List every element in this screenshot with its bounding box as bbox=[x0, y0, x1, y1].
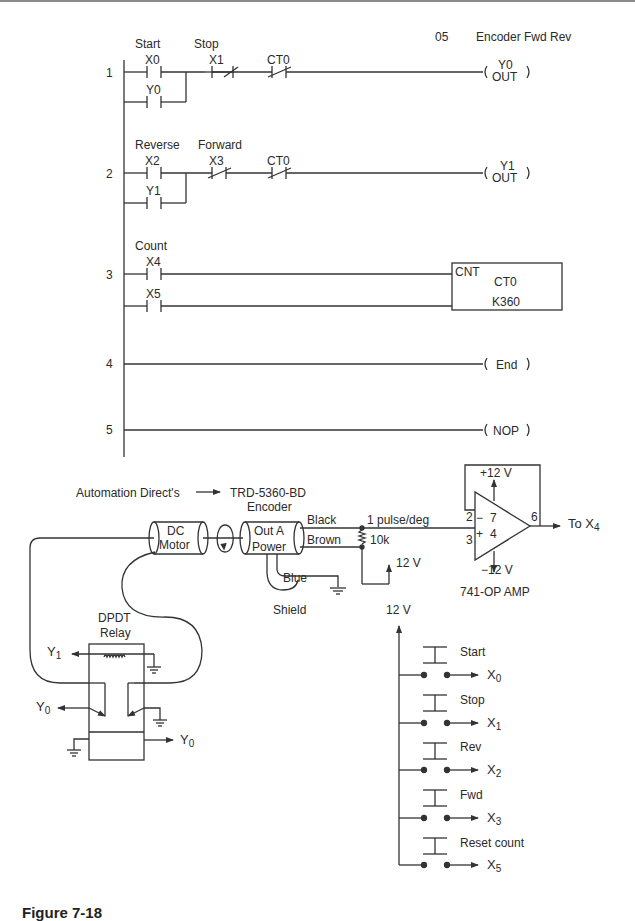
contact-label: Start bbox=[135, 37, 160, 51]
contact-label: Stop bbox=[194, 37, 219, 51]
opamp-pin-6: 6 bbox=[531, 510, 538, 524]
switch-output-x1: X1 bbox=[487, 716, 501, 734]
motor-label: DC bbox=[167, 524, 184, 538]
encoder-model: TRD-5360-BD bbox=[230, 486, 306, 500]
opamp-pos-supply: +12 V bbox=[480, 466, 512, 480]
rung-number: 4 bbox=[106, 357, 113, 371]
rung-1 bbox=[124, 66, 529, 108]
program-title: Encoder Fwd Rev bbox=[476, 30, 571, 44]
end-instruction: End bbox=[496, 358, 517, 372]
switch-label-start: Start bbox=[460, 645, 485, 659]
switch-output-x2: X2 bbox=[487, 763, 501, 781]
dpdt-relay bbox=[58, 644, 173, 760]
resistor-label: 10k bbox=[370, 533, 389, 547]
opamp-inv-sign: − bbox=[476, 511, 483, 525]
wire-blue-label: Blue bbox=[283, 571, 307, 585]
contact-label: Forward bbox=[198, 138, 242, 152]
coil-instruction: OUT bbox=[492, 70, 517, 84]
contact-address: X1 bbox=[209, 53, 224, 67]
switch-output-x0: X0 bbox=[487, 668, 501, 686]
contact-address: X0 bbox=[145, 53, 160, 67]
rung-number: 1 bbox=[106, 66, 113, 80]
contact-address: CT0 bbox=[267, 154, 290, 168]
rung-number: 5 bbox=[106, 423, 113, 437]
counter-preset: K360 bbox=[492, 295, 520, 309]
opamp-pin-4: 4 bbox=[490, 527, 497, 541]
signal-label: 1 pulse/deg bbox=[367, 513, 429, 527]
figure-caption: Figure 7-18 bbox=[22, 904, 102, 921]
contact-label: Count bbox=[135, 239, 167, 253]
encoder-terminal-power: Power bbox=[252, 540, 286, 554]
rung-4 bbox=[124, 358, 529, 370]
contact-address: X2 bbox=[145, 154, 160, 168]
switch-label-rev: Rev bbox=[460, 740, 481, 754]
contact-address: X5 bbox=[146, 287, 161, 301]
contact-address: CT0 bbox=[267, 53, 290, 67]
resistor-10k bbox=[359, 530, 365, 544]
opamp-pin-3: 3 bbox=[466, 533, 473, 547]
relay-right-output: Y0 bbox=[180, 733, 194, 751]
relay-coil-input: Y1 bbox=[47, 645, 61, 663]
contact-label: Reverse bbox=[135, 138, 180, 152]
relay-left-output: Y0 bbox=[36, 700, 50, 718]
rung-2 bbox=[124, 167, 529, 209]
contact-address: X4 bbox=[146, 255, 161, 269]
opamp-pin-7: 7 bbox=[490, 511, 497, 525]
contact-address: Y1 bbox=[146, 184, 161, 198]
pullup-supply-label: 12 V bbox=[396, 556, 421, 570]
vendor-label: Automation Direct's bbox=[76, 486, 180, 500]
switch-label-stop: Stop bbox=[460, 693, 485, 707]
contact-address: X3 bbox=[209, 154, 224, 168]
opamp-noninv-sign: + bbox=[476, 527, 483, 541]
switch-output-x3: X3 bbox=[487, 811, 501, 829]
encoder-terminal-out-a: Out A bbox=[254, 524, 284, 538]
relay-title: Relay bbox=[100, 626, 131, 640]
opamp-output-label: To X4 bbox=[568, 517, 600, 535]
shield-label: Shield bbox=[273, 603, 306, 617]
rung-number: 2 bbox=[106, 167, 113, 181]
switch-label-fwd: Fwd bbox=[460, 788, 483, 802]
wire-black-label: Black bbox=[307, 513, 336, 527]
counter-type: CNT bbox=[455, 265, 480, 279]
nop-instruction: NOP bbox=[493, 424, 519, 438]
encoder-label: Encoder bbox=[247, 500, 292, 514]
coil-instruction: OUT bbox=[492, 171, 517, 185]
switch-output-x5: X5 bbox=[487, 858, 501, 876]
switch-supply-label: 12 V bbox=[386, 603, 411, 617]
counter-name: CT0 bbox=[494, 275, 517, 289]
switch-label-reset-count: Reset count bbox=[460, 836, 524, 850]
opamp-neg-supply: −12 V bbox=[481, 563, 513, 577]
motor-label: Motor bbox=[159, 538, 190, 552]
program-number: 05 bbox=[435, 30, 448, 44]
contact-address: Y0 bbox=[146, 83, 161, 97]
rung-5 bbox=[124, 424, 529, 436]
relay-title: DPDT bbox=[98, 611, 131, 625]
opamp-name: 741-OP AMP bbox=[460, 585, 530, 599]
wire-brown-label: Brown bbox=[307, 533, 341, 547]
rung-number: 3 bbox=[106, 268, 113, 282]
opamp-pin-2: 2 bbox=[466, 510, 473, 524]
motor-wire-2 bbox=[122, 552, 202, 683]
